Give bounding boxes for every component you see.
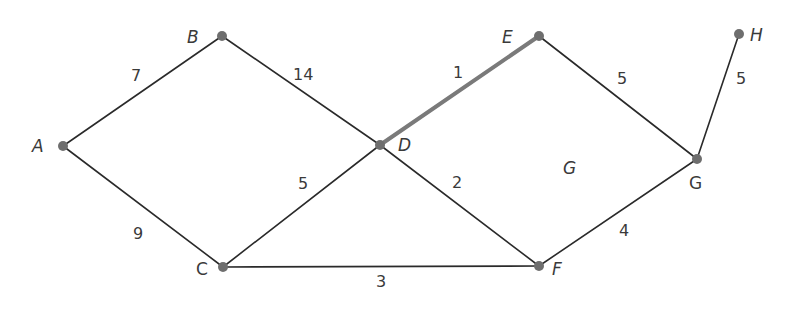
node-label-g: G	[689, 173, 702, 193]
weight-d-f: 2	[452, 173, 462, 192]
node-h	[734, 29, 744, 39]
edge-g-h	[697, 34, 739, 159]
weight-e-g: 5	[617, 69, 627, 88]
edge-e-g	[539, 36, 697, 159]
node-label-c: C	[196, 259, 208, 279]
edge-d-e-highlighted	[380, 36, 539, 145]
edge-c-d	[223, 145, 380, 267]
weight-a-c: 9	[133, 224, 143, 243]
node-a	[58, 141, 68, 151]
weight-d-e: 1	[453, 63, 463, 82]
node-label-b: B	[187, 27, 199, 47]
edge-d-f	[380, 145, 539, 266]
graph-name-label: G	[563, 158, 576, 178]
node-label-f: F	[552, 259, 562, 279]
node-label-e: E	[502, 27, 513, 47]
graph-diagram: A B C D E F G H G 7 14 9 5 3 1 2 5 4 5	[0, 0, 788, 318]
edge-a-c	[63, 146, 223, 267]
edge-a-b	[63, 36, 222, 146]
edge-c-f	[223, 266, 539, 267]
weight-f-g: 4	[619, 221, 629, 240]
edge-b-d	[222, 36, 380, 145]
weight-c-d: 5	[298, 174, 308, 193]
node-g	[692, 154, 702, 164]
weight-a-b: 7	[131, 66, 141, 85]
node-label-a: A	[31, 136, 44, 156]
weight-g-h: 5	[736, 69, 746, 88]
node-d	[375, 140, 385, 150]
node-f	[534, 261, 544, 271]
node-label-h: H	[750, 25, 763, 45]
weight-c-f: 3	[376, 272, 386, 291]
node-c	[218, 262, 228, 272]
node-label-d: D	[398, 135, 411, 155]
weight-b-d: 14	[293, 65, 313, 84]
node-b	[217, 31, 227, 41]
node-e	[534, 31, 544, 41]
